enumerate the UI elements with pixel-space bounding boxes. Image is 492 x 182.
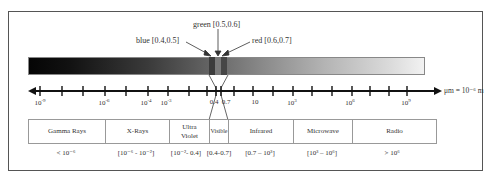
unit-label: μm = 10⁻⁶ m (444, 87, 484, 95)
tick-label: 0.7 (222, 98, 231, 106)
tick-base: 0.4 (210, 98, 219, 106)
tick-base: 10 (140, 99, 147, 107)
tick-label: 0.4 (210, 98, 219, 106)
tick-base: 10 (34, 99, 41, 107)
tick-label: 10 (252, 98, 259, 106)
tick-base: 10 (401, 99, 408, 107)
range-ultra-violet: [10⁻²- 0.4] (171, 149, 201, 157)
axis-arrow-left (28, 87, 36, 95)
region-microwave: Microwave (294, 120, 353, 144)
tick-exp: -9 (41, 98, 45, 103)
range-infrared: [0.7 – 10³] (245, 149, 275, 157)
region-ultra-violet: UltraViolet (170, 120, 210, 144)
region-gamma-rays: Gamma Rays (29, 120, 106, 144)
tick-label: 106 (345, 98, 355, 107)
spectrum-regions-table: Gamma Rays X-Rays UltraViolet Visible In… (28, 119, 437, 144)
tick-exp: -6 (105, 98, 109, 103)
region-name-line: Violet (181, 132, 198, 140)
tick-base: 10 (160, 99, 167, 107)
tick-exp: 6 (352, 98, 355, 103)
range-radio: > 10⁶ (384, 149, 399, 157)
tick-label: 109 (401, 98, 411, 107)
tick-base: 10 (287, 99, 294, 107)
tick-label: 10-9 (34, 98, 45, 107)
tick-exp: -4 (147, 98, 151, 103)
tick-base: 10 (98, 99, 105, 107)
tick-exp: 3 (294, 98, 297, 103)
tick-base: 0.7 (222, 98, 231, 106)
tick-label: 10-3 (160, 98, 171, 107)
region-visible: Visible (210, 120, 229, 144)
callout-arrows (186, 29, 250, 56)
region-name-line: Ultra (182, 123, 196, 131)
tick-exp: 9 (408, 98, 411, 103)
range-microwave: [10³ – 10⁶] (307, 149, 337, 157)
range-gamma-rays: < 10⁻⁶ (57, 149, 76, 157)
tick-label: 10-4 (140, 98, 151, 107)
tick-exp: -3 (167, 98, 171, 103)
tick-base: 10 (252, 98, 259, 106)
region-infrared: Infrared (229, 120, 294, 144)
range-x-rays: [10⁻⁶ - 10⁻²] (118, 149, 154, 157)
tick-base: 10 (345, 99, 352, 107)
tick-label: 103 (287, 98, 297, 107)
region-radio: Radio (353, 120, 437, 144)
tick-label: 10-6 (98, 98, 109, 107)
region-x-rays: X-Rays (106, 120, 170, 144)
axis-arrow-right (434, 87, 442, 95)
range-visible: [0.4-0.7] (207, 149, 232, 157)
table-row: Gamma Rays X-Rays UltraViolet Visible In… (29, 120, 437, 144)
